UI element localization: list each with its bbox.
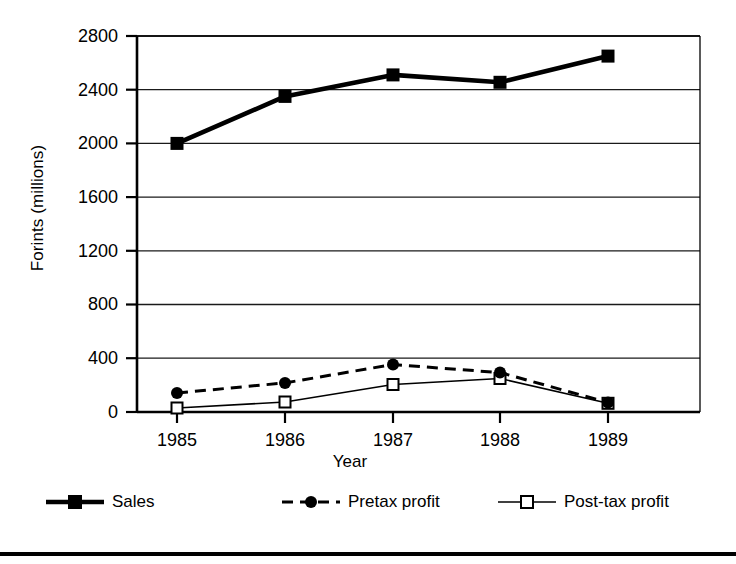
filled-square-icon <box>46 491 104 513</box>
x-axis-title: Year <box>0 452 700 472</box>
data-point <box>388 379 399 390</box>
x-tick-label: 1988 <box>455 431 545 449</box>
legend-label: Post-tax profit <box>556 492 669 512</box>
data-point <box>494 76 507 89</box>
data-point <box>280 397 291 408</box>
footer-rule <box>0 552 736 556</box>
chart-legend: Sales Pretax profit Post-tax profit <box>0 487 736 529</box>
series-sales <box>171 50 615 150</box>
data-point <box>494 367 506 379</box>
data-point <box>171 137 184 150</box>
y-tick-label: 400 <box>28 349 118 367</box>
legend-label: Sales <box>104 492 155 512</box>
y-tick-label: 0 <box>28 403 118 421</box>
x-tick-label: 1989 <box>563 431 653 449</box>
x-tick-marks <box>177 412 608 423</box>
filled-circle-icon <box>282 491 340 513</box>
y-tick-marks <box>126 36 137 412</box>
data-point <box>171 387 183 399</box>
x-tick-label: 1985 <box>132 431 222 449</box>
x-tick-label: 1986 <box>240 431 330 449</box>
open-square-icon <box>498 491 556 513</box>
chart-figure: 2800 2400 2000 1600 1200 800 400 0 1985 … <box>0 0 736 564</box>
data-point <box>387 359 399 371</box>
data-point <box>279 90 292 103</box>
legend-item-pretax-profit[interactable]: Pretax profit <box>282 487 440 517</box>
line-chart-svg <box>0 0 736 470</box>
plot-area: 2800 2400 2000 1600 1200 800 400 0 1985 … <box>0 0 736 470</box>
y-tick-label: 2800 <box>28 27 118 45</box>
data-point <box>602 397 614 409</box>
legend-label: Pretax profit <box>340 492 440 512</box>
y-axis-title: Forints (millions) <box>28 108 48 308</box>
data-point <box>172 403 183 414</box>
data-point <box>602 50 615 63</box>
y-tick-label: 2400 <box>28 81 118 99</box>
legend-item-post-tax-profit[interactable]: Post-tax profit <box>498 487 669 517</box>
x-tick-label: 1987 <box>348 431 438 449</box>
series-post-tax-profit <box>172 373 614 414</box>
data-point <box>387 68 400 81</box>
data-point <box>279 377 291 389</box>
axis-spines <box>137 36 700 412</box>
legend-item-sales[interactable]: Sales <box>46 487 155 517</box>
gridlines <box>137 36 700 358</box>
